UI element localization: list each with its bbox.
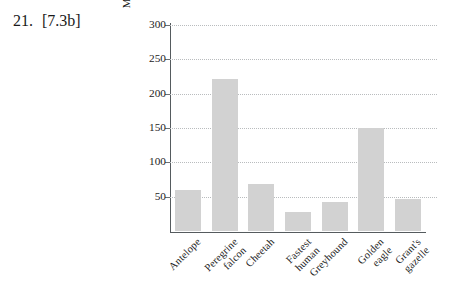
bar [285, 212, 311, 231]
y-axis-tick-label: 300 [126, 19, 166, 30]
bar-chart-figure: Maximum speed (in miles per hour) 501001… [0, 0, 455, 306]
y-axis-tick-label: 50 [126, 191, 166, 202]
gridline [170, 59, 437, 60]
x-axis-line [170, 232, 426, 233]
bar [212, 79, 238, 231]
x-axis-category-label: Antelope [167, 236, 204, 273]
bar [248, 184, 274, 231]
gridline [170, 197, 437, 198]
x-axis-category-label: Grant'sgazelle [393, 236, 432, 275]
bar [395, 199, 421, 231]
y-axis-tick-label: 100 [126, 157, 166, 168]
bar [322, 202, 348, 231]
gridline [170, 162, 437, 163]
gridline [170, 25, 437, 26]
y-axis-tick-label: 150 [126, 122, 166, 133]
y-axis-tick-label: 200 [126, 88, 166, 99]
x-axis-category-label: Goldeneagle [355, 236, 395, 276]
gridline [170, 128, 437, 129]
plot-area: 50100150200250300 [170, 25, 437, 231]
x-axis-category-label: Peregrinefalcon [202, 236, 249, 283]
gridline [170, 94, 437, 95]
bar [175, 190, 201, 231]
bar [358, 128, 384, 231]
y-axis-tick-label: 250 [126, 54, 166, 65]
